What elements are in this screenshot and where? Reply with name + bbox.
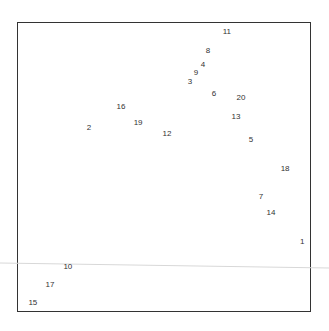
point-label: 18: [281, 165, 290, 173]
point-label: 1: [300, 238, 304, 246]
point-label: 15: [28, 299, 37, 307]
point-label: 8: [206, 47, 210, 55]
point-label: 11: [223, 28, 231, 36]
point-label: 20: [237, 94, 246, 102]
point-label: 2: [87, 124, 91, 132]
point-label: 17: [45, 281, 54, 289]
point-label: 4: [201, 61, 205, 69]
point-label: 14: [267, 209, 276, 217]
point-label: 16: [117, 103, 126, 111]
point-label: 7: [259, 193, 263, 201]
point-label: 12: [162, 130, 171, 138]
point-label: 10: [63, 263, 72, 271]
point-label: 13: [232, 113, 241, 121]
point-label: 19: [134, 119, 143, 127]
point-label: 5: [249, 136, 253, 144]
point-label: 6: [212, 90, 216, 98]
plot-frame: [17, 22, 311, 312]
point-label: 3: [188, 78, 192, 86]
point-label: 9: [194, 69, 198, 77]
